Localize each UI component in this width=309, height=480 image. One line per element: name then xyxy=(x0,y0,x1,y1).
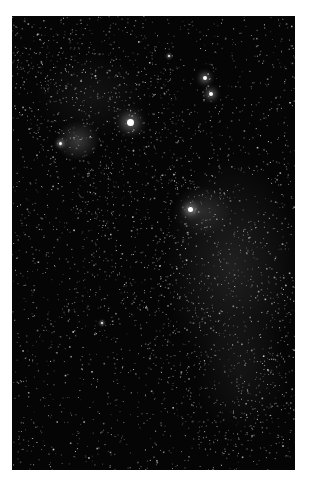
bright-star xyxy=(188,207,193,212)
star-field-canvas xyxy=(12,16,295,470)
star-field-photo xyxy=(12,16,295,470)
bright-star xyxy=(203,76,207,80)
bright-star xyxy=(127,119,134,126)
bright-star xyxy=(209,92,213,96)
bright-star xyxy=(59,142,62,145)
bright-star xyxy=(168,55,170,57)
bright-star xyxy=(101,322,103,324)
